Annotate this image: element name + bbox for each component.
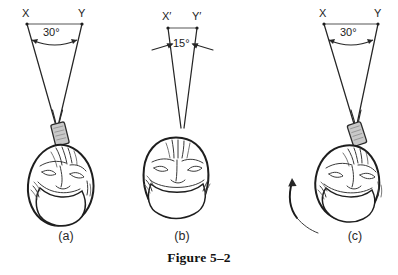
panel-a-vertex-y-dot (80, 22, 83, 25)
panel-c-sub-caption: (c) (348, 229, 363, 243)
panel-a-beam-right (59, 24, 83, 124)
panel-a-angle-label: 30° (43, 26, 60, 38)
panel-c-label-x: X (319, 7, 327, 19)
panel-b-vertex-x-dot (166, 26, 169, 29)
panel-b-angle-label: 15° (173, 37, 190, 49)
panel-c-rotation-arrow-head (288, 178, 296, 187)
panel-a-transducer (51, 122, 70, 147)
panel-a-label-y: Y (78, 7, 86, 19)
panel-a-probe-body (51, 122, 70, 147)
panel-c-transducer (347, 121, 367, 146)
panel-c-angle-arc (329, 40, 373, 45)
panel-c-beam-left (324, 24, 354, 124)
panel-a-sub-caption: (a) (58, 229, 73, 243)
panel-c-vertex-y-dot (376, 22, 379, 25)
panel-b-sub-caption: (b) (174, 229, 189, 243)
panel-a-vertex-x-dot (25, 22, 28, 25)
panel-c-rotation-arrow-tail (297, 218, 318, 233)
panel-c-beam-right (357, 24, 378, 124)
panel-b-vertex-y-dot (195, 26, 198, 29)
panel-b: X′ Y′ 15° (144, 10, 213, 243)
figure-root: X Y 30° (0, 0, 398, 275)
panel-a: X Y 30° (22, 7, 94, 243)
panel-c-probe-body (347, 121, 367, 146)
panel-c: X Y 30° (288, 7, 382, 243)
panel-a-label-x: X (22, 7, 30, 19)
panel-c-vertex-x-dot (322, 22, 325, 25)
panel-b-label-x-prime: X′ (162, 10, 171, 22)
panel-c-rotation-arrow-arc (290, 182, 297, 218)
panel-c-ear-right-2 (381, 185, 382, 197)
figure-caption: Figure 5–2 (0, 250, 398, 266)
figure-illustration: X Y 30° (0, 0, 398, 275)
panel-a-angle-arc (32, 40, 77, 45)
panel-c-label-y: Y (374, 7, 382, 19)
panel-c-angle-label: 30° (340, 26, 357, 38)
panel-a-beam-left (27, 24, 56, 124)
panel-b-label-y-prime: Y′ (192, 10, 201, 22)
